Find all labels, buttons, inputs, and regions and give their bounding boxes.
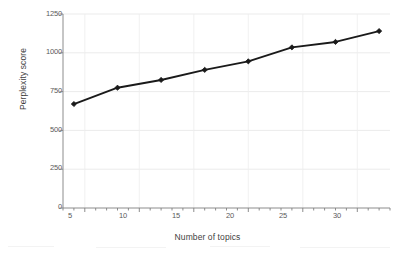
data-point-marker: [202, 67, 207, 72]
data-point-marker: [246, 59, 251, 64]
data-point-marker: [377, 28, 382, 33]
gridlines: [63, 14, 390, 208]
perplexity-line-chart: Perplexity score 1250 1000 750 500 250 0…: [0, 0, 415, 259]
data-point-marker: [333, 39, 338, 44]
plot-area: [0, 0, 415, 259]
data-markers: [71, 28, 381, 106]
axis-lines: [63, 14, 390, 208]
data-point-marker: [71, 101, 76, 106]
data-point-marker: [115, 85, 120, 90]
data-point-marker: [159, 77, 164, 82]
axis-ticks: [60, 14, 391, 212]
data-point-marker: [289, 45, 294, 50]
